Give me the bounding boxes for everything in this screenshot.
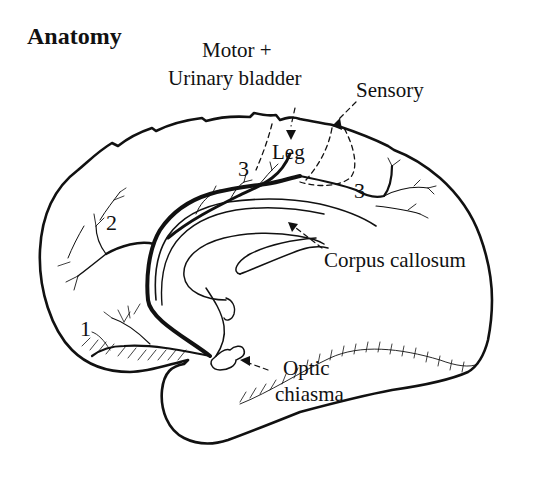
label-motor: Motor + [202, 40, 272, 61]
brain-outline [40, 113, 492, 444]
label-leg: Leg [272, 142, 305, 163]
label-urinary-bladder: Urinary bladder [168, 68, 302, 89]
optic-chiasma-shape [211, 346, 244, 370]
branch-number-3-right: 3 [354, 180, 365, 202]
label-optic: Optic [283, 358, 330, 379]
branch-number-1: 1 [80, 318, 91, 340]
label-chiasma: chiasma [275, 384, 344, 405]
lateral-ventricle-outline [184, 233, 324, 300]
label-sensory: Sensory [356, 80, 424, 101]
branch-number-3-left: 3 [238, 158, 249, 180]
diagram-title: Anatomy [27, 24, 122, 48]
frontopolar-artery [106, 243, 154, 254]
brain-medial-view-diagram: Anatomy Motor + Urinary bladder Sensory … [0, 0, 549, 482]
callosomarginal-artery [168, 154, 290, 238]
label-corpus-callosum: Corpus callosum [324, 250, 466, 271]
orbitofrontal-artery [92, 346, 210, 356]
branch-number-2: 2 [106, 212, 117, 234]
